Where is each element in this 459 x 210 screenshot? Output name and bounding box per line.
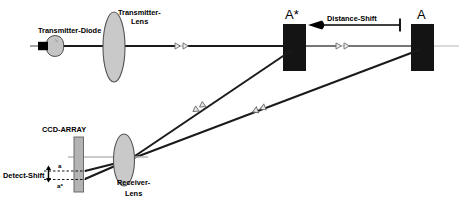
label-target-a-star: A*: [285, 7, 299, 22]
ccd-array: [74, 137, 84, 192]
label-spot-a-star: a*: [57, 182, 63, 189]
return-beam-from-a-star: [129, 50, 292, 160]
label-receiver-lens-line2: Lens: [125, 189, 142, 198]
transmitter-lens: [103, 12, 125, 82]
detect-shift-arrowhead-down-icon: [46, 178, 51, 183]
diagram-canvas: Transmitter-Diode Transmitter- Lens A* A…: [0, 0, 459, 210]
distance-shift-arrowhead-icon: [308, 20, 324, 29]
transmitter-diode: [30, 36, 64, 57]
optical-triangulation-diagram: Transmitter-Diode Transmitter- Lens A* A…: [0, 0, 459, 210]
target-block-a: [411, 24, 434, 71]
detect-shift-arrowhead-up-icon: [46, 165, 51, 170]
return-beam-from-a: [131, 50, 419, 159]
label-transmitter-diode: Transmitter-Diode: [38, 26, 101, 35]
label-spot-a: a: [58, 162, 62, 169]
label-receiver-lens-line1: Receiver-: [117, 178, 151, 187]
label-transmitter-lens-line2: Lens: [131, 17, 148, 26]
label-ccd-array: CCD-ARRAY: [42, 125, 86, 134]
diode-emitter-cap: [38, 42, 48, 50]
label-distance-shift: Distance-Shift: [327, 14, 377, 23]
label-target-a: A: [417, 7, 426, 22]
target-block-a-star: [283, 24, 306, 71]
label-transmitter-lens-line1: Transmitter-: [118, 8, 161, 17]
label-detect-shift: Detect-Shift: [3, 171, 45, 180]
